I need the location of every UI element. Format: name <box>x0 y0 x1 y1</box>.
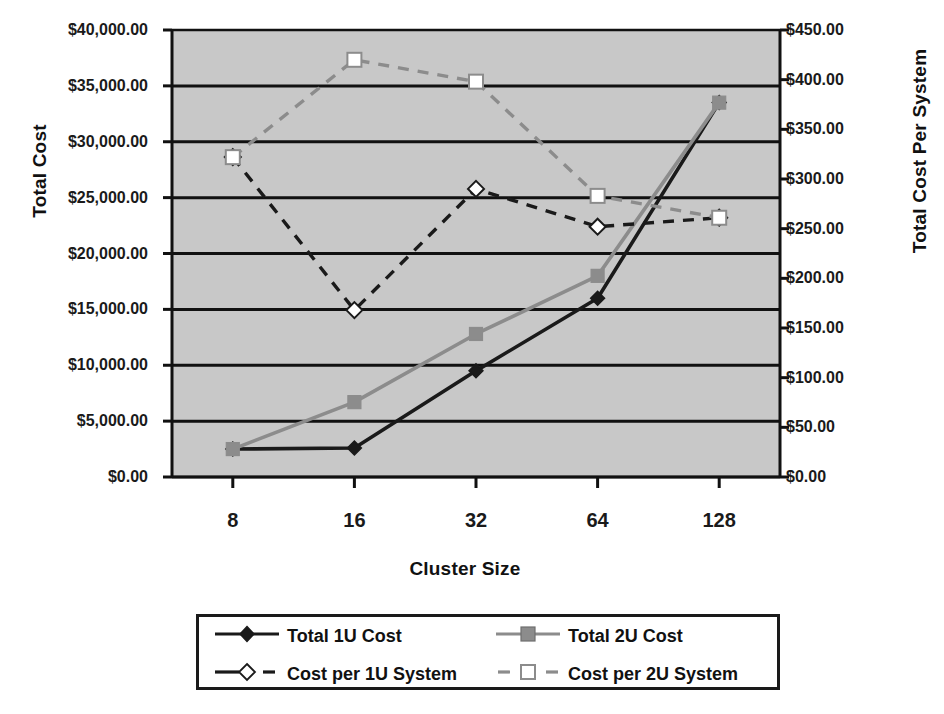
x-axis-tick-label: 128 <box>679 512 759 528</box>
data-point-marker <box>226 150 240 164</box>
data-point-marker <box>713 96 726 109</box>
data-point-marker <box>347 53 361 67</box>
data-point-marker <box>469 75 483 89</box>
y-axis-tick-label: $20,000.00 <box>0 246 148 262</box>
data-point-marker <box>348 396 361 409</box>
legend-item-total-1u-cost: Total 1U Cost <box>199 617 494 655</box>
data-point-marker <box>591 189 605 203</box>
x-axis-tick-label: 32 <box>436 512 516 528</box>
legend-key-diamond-dashed-black <box>213 661 281 687</box>
data-point-marker <box>470 327 483 340</box>
y-axis-right-title: Total Cost Per System <box>909 0 931 311</box>
x-axis-tick-label: 16 <box>314 512 394 528</box>
legend-key-square-dashed-gray <box>494 661 562 687</box>
y2-axis-tick-label: $400.00 <box>786 72 926 88</box>
legend-key-diamond-solid-black <box>213 623 281 649</box>
data-point-marker <box>226 443 239 456</box>
x-axis-tick-label: 64 <box>558 512 638 528</box>
data-point-marker <box>591 269 604 282</box>
y-axis-tick-label: $30,000.00 <box>0 134 148 150</box>
y2-axis-tick-label: $350.00 <box>786 121 926 137</box>
y-axis-tick-label: $0.00 <box>0 469 148 485</box>
y-axis-tick-label: $40,000.00 <box>0 22 148 38</box>
y2-axis-tick-label: $300.00 <box>786 171 926 187</box>
legend-key-square-solid-gray <box>494 623 562 649</box>
y2-axis-tick-label: $50.00 <box>786 419 926 435</box>
legend-item-cost-per-1u-system: Cost per 1U System <box>199 655 494 693</box>
y-axis-tick-label: $5,000.00 <box>0 413 148 429</box>
legend-label: Cost per 2U System <box>568 664 738 685</box>
y-axis-tick-label: $35,000.00 <box>0 78 148 94</box>
y2-axis-tick-label: $200.00 <box>786 270 926 286</box>
legend-label: Total 2U Cost <box>568 626 683 647</box>
x-axis-title: Cluster Size <box>160 558 770 580</box>
legend-item-cost-per-2u-system: Cost per 2U System <box>494 655 777 693</box>
legend-row: Cost per 1U System Cost per 2U System <box>199 655 777 693</box>
chart-container: Total Cost Total Cost Per System Cluster… <box>0 0 944 714</box>
legend-label: Cost per 1U System <box>287 664 457 685</box>
legend-label: Total 1U Cost <box>287 626 402 647</box>
y2-axis-tick-label: $250.00 <box>786 221 926 237</box>
y-axis-left-title: Total Cost <box>29 71 51 271</box>
y2-axis-tick-label: $450.00 <box>786 22 926 38</box>
y2-axis-tick-label: $150.00 <box>786 320 926 336</box>
data-point-marker <box>712 211 726 225</box>
legend-row: Total 1U Cost Total 2U Cost <box>199 617 777 655</box>
y-axis-tick-label: $10,000.00 <box>0 357 148 373</box>
y-axis-tick-label: $25,000.00 <box>0 190 148 206</box>
x-axis-tick-label: 8 <box>193 512 273 528</box>
y2-axis-tick-label: $100.00 <box>786 370 926 386</box>
y2-axis-tick-label: $0.00 <box>786 469 926 485</box>
y-axis-tick-label: $15,000.00 <box>0 301 148 317</box>
legend-item-total-2u-cost: Total 2U Cost <box>494 617 777 655</box>
legend: Total 1U Cost Total 2U Cost <box>196 614 780 690</box>
